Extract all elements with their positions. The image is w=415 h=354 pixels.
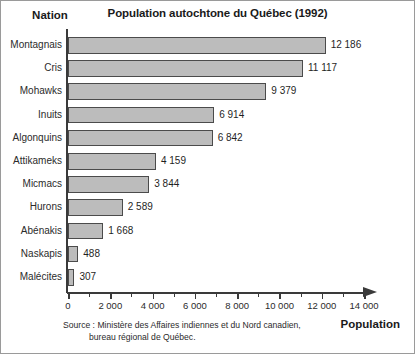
x-axis-major-tick [237, 293, 239, 299]
bar-category-label: Inuits [1, 107, 62, 124]
bar [68, 130, 213, 147]
source-note-line-2: bureau régional de Québec. [63, 332, 301, 344]
x-axis-tick-label: 8 000 [225, 300, 249, 311]
bar [68, 37, 326, 54]
x-axis-major-tick [68, 293, 70, 299]
x-axis-major-tick [364, 293, 366, 299]
x-axis-minor-tick [301, 293, 302, 297]
bar-category-label: Malécites [1, 269, 62, 286]
bar-category-label: Abénakis [1, 223, 62, 240]
x-axis-minor-tick [258, 293, 259, 297]
bar [68, 223, 103, 240]
bar-value-label: 307 [79, 269, 96, 286]
bar-row: Malécites307 [1, 269, 415, 292]
bar-value-label: 9 379 [271, 83, 296, 100]
chart-title: Population autochtone du Québec (1992) [1, 7, 415, 19]
bar-value-label: 12 186 [331, 37, 362, 54]
source-note: Source : Ministère des Affaires indienne… [63, 320, 301, 343]
bar-category-label: Hurons [1, 199, 62, 216]
x-axis-tick-label: 14 000 [349, 300, 378, 311]
bar [68, 199, 123, 216]
x-axis-minor-tick [131, 293, 132, 297]
x-axis-major-tick [153, 293, 155, 299]
bar-category-label: Attikameks [1, 153, 62, 170]
bar-category-label: Cris [1, 60, 62, 77]
x-axis-major-tick [279, 293, 281, 299]
bar [68, 246, 78, 263]
x-axis-tick-label: 12 000 [307, 300, 336, 311]
bar [68, 176, 149, 193]
bar-category-label: Micmacs [1, 176, 62, 193]
x-axis-minor-tick [216, 293, 217, 297]
bar [68, 269, 74, 286]
x-axis-tick-label: 6 000 [183, 300, 207, 311]
bar-value-label: 11 117 [308, 60, 337, 77]
bar-row: Abénakis1 668 [1, 223, 415, 246]
bar [68, 60, 303, 77]
x-axis-major-tick [195, 293, 197, 299]
source-note-line-1: Source : Ministère des Affaires indienne… [63, 320, 301, 332]
bar-value-label: 1 668 [108, 223, 133, 240]
y-axis-line [66, 29, 68, 293]
bar [68, 83, 266, 100]
bar-category-label: Algonquins [1, 130, 62, 147]
x-axis-minor-tick [174, 293, 175, 297]
plot-area: Montagnais12 186Cris11 117Mohawks9 379In… [1, 31, 415, 293]
bar-row: Naskapis488 [1, 246, 415, 269]
bar-value-label: 6 842 [218, 130, 243, 147]
chart-figure: Nation Population autochtone du Québec (… [0, 0, 415, 354]
bar-category-label: Mohawks [1, 83, 62, 100]
bar-row: Attikameks4 159 [1, 153, 415, 176]
bar-value-label: 2 589 [128, 199, 153, 216]
bar-row: Inuits6 914 [1, 107, 415, 130]
bar-row: Mohawks9 379 [1, 83, 415, 106]
bar-row: Hurons2 589 [1, 199, 415, 222]
x-axis-tick-label: 0 [65, 300, 70, 311]
bar-category-label: Naskapis [1, 246, 62, 263]
x-axis-title: Population [341, 318, 400, 330]
bar-row: Algonquins6 842 [1, 130, 415, 153]
x-axis-minor-tick [343, 293, 344, 297]
bar-row: Micmacs3 844 [1, 176, 415, 199]
x-axis-tick-label: 10 000 [265, 300, 294, 311]
bar [68, 107, 214, 124]
x-axis-tick-label: 4 000 [141, 300, 165, 311]
bar-value-label: 488 [83, 246, 100, 263]
bar-value-label: 6 914 [219, 107, 244, 124]
x-axis-minor-tick [89, 293, 90, 297]
bar-value-label: 4 159 [161, 153, 186, 170]
x-axis-tick-label: 2 000 [98, 300, 122, 311]
bar-row: Cris11 117 [1, 60, 415, 83]
bar-category-label: Montagnais [1, 37, 62, 54]
bar-value-label: 3 844 [154, 176, 179, 193]
bar-row: Montagnais12 186 [1, 37, 415, 60]
x-axis-major-tick [322, 293, 324, 299]
bar [68, 153, 156, 170]
x-axis-major-tick [110, 293, 112, 299]
